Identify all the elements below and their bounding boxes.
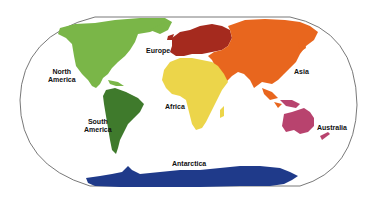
label-line: Europe	[146, 47, 170, 55]
label-line: South	[84, 118, 112, 126]
label-north-america: North America	[48, 68, 76, 84]
label-africa: Africa	[165, 103, 185, 111]
label-line: Antarctica	[172, 160, 206, 168]
label-line: North	[48, 68, 76, 76]
label-line: Asia	[294, 68, 309, 76]
label-line: America	[48, 76, 76, 84]
label-line: Australia	[317, 124, 347, 132]
label-antarctica: Antarctica	[172, 160, 206, 168]
label-australia: Australia	[317, 124, 347, 132]
label-asia: Asia	[294, 68, 309, 76]
label-line: America	[84, 126, 112, 134]
label-europe: Europe	[146, 47, 170, 55]
label-south-america: South America	[84, 118, 112, 134]
label-line: Africa	[165, 103, 185, 111]
